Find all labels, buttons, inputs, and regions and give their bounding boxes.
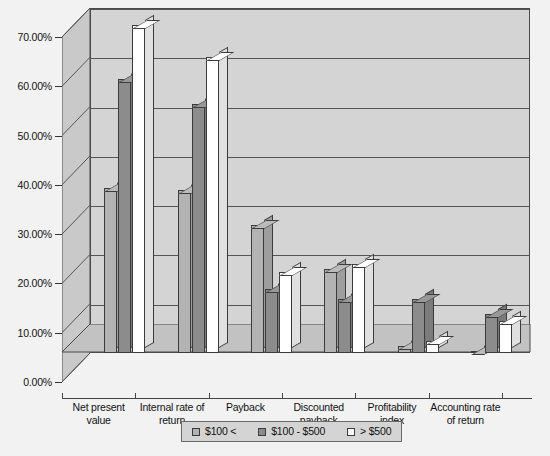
y-axis-tick-label: 20.00% — [18, 278, 52, 288]
y-axis-tick-mark — [55, 136, 62, 137]
legend-item[interactable]: $100 - $500 — [258, 426, 325, 437]
bar-side — [365, 254, 374, 348]
bar — [471, 351, 484, 353]
y-axis-tick-label: 70.00% — [18, 32, 52, 42]
bar-face — [279, 272, 292, 353]
x-axis-tick-mark — [429, 393, 430, 399]
bar — [412, 299, 425, 353]
legend-item-label: $100 - $500 — [271, 426, 325, 437]
bar-side — [219, 47, 228, 348]
bar-face — [412, 299, 425, 353]
x-axis-tick-mark — [355, 393, 356, 399]
bar — [251, 225, 264, 353]
y-axis: 0.00%10.00%20.00%30.00%40.00%50.00%60.00… — [0, 0, 62, 456]
bar-face — [265, 289, 278, 353]
bar-face — [118, 79, 131, 353]
bar-face — [485, 314, 498, 353]
bar-face — [178, 190, 191, 353]
x-axis-ticks — [62, 393, 532, 399]
bar-side — [145, 15, 154, 348]
legend-item-label: > $500 — [360, 426, 391, 437]
x-axis-category-label: Accounting rate of return — [429, 401, 502, 426]
y-axis-tick-mark — [55, 283, 62, 284]
bar-face — [352, 264, 365, 353]
x-axis-category-label: Net present value — [62, 401, 135, 426]
bar — [132, 25, 145, 353]
bar — [338, 299, 351, 353]
bar — [206, 57, 219, 353]
bar — [279, 272, 292, 353]
y-axis-tick-label: 10.00% — [18, 328, 52, 338]
y-axis-tick-label: 50.00% — [18, 131, 52, 141]
x-axis-category-label: Payback — [209, 401, 282, 414]
plot-area — [62, 8, 532, 398]
bar-face — [104, 188, 117, 353]
bar — [324, 269, 337, 353]
bar — [104, 188, 117, 353]
legend-item[interactable]: > $500 — [347, 426, 391, 437]
legend-swatch-under-100 — [192, 428, 200, 436]
x-axis-tick-mark — [135, 393, 136, 399]
y-axis-tick-label: 40.00% — [18, 180, 52, 190]
bar-face — [192, 104, 205, 353]
bar-face — [132, 25, 145, 353]
bar — [426, 341, 439, 353]
bar-face — [251, 225, 264, 353]
bars-layer — [62, 8, 532, 398]
y-axis-tick-label: 0.00% — [23, 377, 52, 387]
bar-face — [338, 299, 351, 353]
bar — [485, 314, 498, 353]
legend-swatch-over-500 — [347, 428, 355, 436]
y-axis-tick-mark — [55, 382, 62, 383]
bar — [265, 289, 278, 353]
bar — [192, 104, 205, 353]
y-axis-tick-mark — [55, 234, 62, 235]
y-axis-tick-label: 60.00% — [18, 81, 52, 91]
x-axis-tick-mark — [282, 393, 283, 399]
y-axis-tick-mark — [55, 185, 62, 186]
x-axis-tick-mark — [62, 393, 63, 399]
legend-item[interactable]: $100 < — [192, 426, 236, 437]
bar — [352, 264, 365, 353]
bar-face — [324, 269, 337, 353]
legend-item-label: $100 < — [205, 426, 236, 437]
bar — [118, 79, 131, 353]
bar — [499, 321, 512, 353]
y-axis-tick-label: 30.00% — [18, 229, 52, 239]
y-axis-tick-mark — [55, 86, 62, 87]
x-axis-tick-mark — [209, 393, 210, 399]
bar-face — [499, 321, 512, 353]
bar — [178, 190, 191, 353]
bar-face — [206, 57, 219, 353]
y-axis-tick-mark — [55, 333, 62, 334]
x-axis-tick-mark — [502, 393, 503, 399]
chart-legend: $100 <$100 - $500> $500 — [181, 421, 402, 442]
y-axis-tick-mark — [55, 37, 62, 38]
bar-chart: 0.00%10.00%20.00%30.00%40.00%50.00%60.00… — [0, 0, 550, 456]
bar — [398, 346, 411, 353]
legend-swatch-100-500 — [258, 428, 266, 436]
